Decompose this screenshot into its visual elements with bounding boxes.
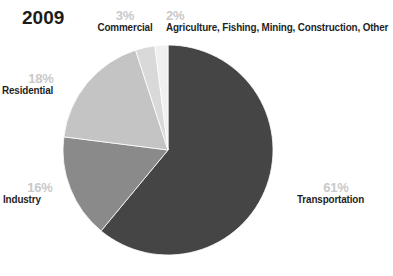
pie-label-commercial-percent: 3% [86,9,164,22]
pie-slice-group [63,45,273,255]
pie-chart-svg [63,45,273,255]
pie-chart [63,45,273,255]
pie-label-industry-percent: 16% [3,181,77,194]
pie-label-agriculture-name: Agriculture, Fishing, Mining, Constructi… [166,22,388,33]
pie-label-transportation-percent: 61% [297,181,375,194]
pie-label-commercial-name: Commercial [88,22,161,33]
pie-label-industry-name: Industry [3,194,73,205]
pie-label-commercial: 3% Commercial [86,9,164,33]
pie-label-transportation-name: Transportation [297,194,370,205]
pie-label-residential-percent: 18% [2,72,80,85]
pie-label-residential: 18% Residential [2,72,80,96]
pie-label-residential-name: Residential [2,85,75,96]
pie-label-transportation: 61% Transportation [297,181,375,205]
page-title: 2009 [22,8,64,27]
pie-label-agriculture-percent: 2% [166,9,393,22]
pie-label-agriculture: 2% Agriculture, Fishing, Mining, Constru… [166,9,393,33]
pie-label-industry: 16% Industry [3,181,77,205]
